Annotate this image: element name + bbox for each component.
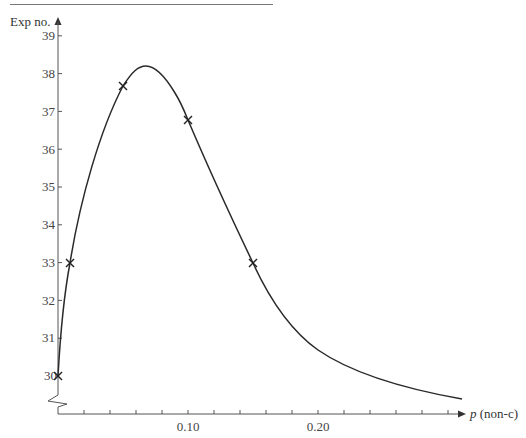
y-tick-label-34: 34 xyxy=(42,217,56,232)
y-tick-label-37: 37 xyxy=(42,104,56,119)
y-tick-label-39: 39 xyxy=(42,28,55,43)
fitted-curve xyxy=(58,66,462,399)
x-axis-title: p (non-c) xyxy=(469,406,518,421)
y-tick-label-35: 35 xyxy=(42,179,55,194)
data-point-marker xyxy=(119,82,127,90)
chart: Exp no. p (non-c) 0.10 0.20 xyxy=(0,0,526,438)
y-tick-label-33: 33 xyxy=(42,255,55,270)
x-ticks xyxy=(84,410,448,414)
y-tick-label-36: 36 xyxy=(42,142,56,157)
y-tick-labels: 39 38 37 36 35 34 33 32 31 30 xyxy=(42,28,57,383)
x-tick-label-0.10: 0.10 xyxy=(177,419,200,434)
y-tick-label-32: 32 xyxy=(42,293,55,308)
x-axis-title-rest: (non-c) xyxy=(477,406,519,421)
y-axis-break-icon xyxy=(48,395,67,414)
y-axis-title: Exp no. xyxy=(10,14,50,29)
y-ticks xyxy=(58,36,62,338)
y-tick-label-38: 38 xyxy=(42,66,55,81)
y-tick-label-31: 31 xyxy=(42,330,55,345)
y-tick-label-30: 30 xyxy=(44,368,57,383)
x-tick-label-0.20: 0.20 xyxy=(307,419,330,434)
x-axis-arrow-icon xyxy=(458,411,466,418)
observed-points xyxy=(54,82,257,380)
data-point-marker xyxy=(249,259,257,267)
data-point-marker xyxy=(184,116,192,124)
